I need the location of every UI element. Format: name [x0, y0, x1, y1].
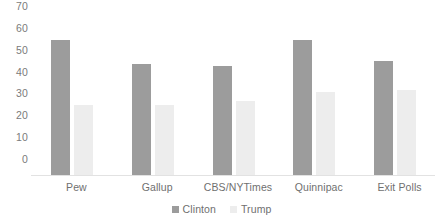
bar-group-gallup: [112, 22, 193, 175]
bar-trump-cbs-nytimes: [236, 101, 255, 175]
legend-item-trump: Trump: [230, 203, 271, 215]
legend-label-trump: Trump: [241, 203, 271, 215]
bar-trump-quinnipac: [316, 92, 335, 175]
bar-trump-exit-polls: [397, 90, 416, 175]
y-tick-label-10: 10: [0, 132, 28, 143]
category-label-pew: Pew: [31, 180, 112, 196]
bar-group-exit-polls: [354, 22, 435, 175]
legend-swatch-trump-icon: [230, 206, 237, 213]
category-label-quinnipac: Quinnipac: [273, 180, 354, 196]
bar-group-cbs-nytimes: [193, 22, 274, 175]
legend-label-clinton: Clinton: [183, 203, 216, 215]
y-tick-label-0: 0: [0, 154, 28, 165]
y-tick-label-50: 50: [0, 45, 28, 56]
x-axis-baseline: [31, 175, 435, 176]
legend-swatch-clinton-icon: [172, 206, 179, 213]
bar-clinton-pew: [51, 40, 70, 176]
bar-clinton-gallup: [132, 64, 151, 175]
bar-clinton-cbs-nytimes: [213, 66, 232, 175]
category-label-cbs-nytimes: CBS/NYTimes: [193, 180, 274, 196]
y-tick-label-60: 60: [0, 23, 28, 34]
bar-group-pew: [31, 22, 112, 175]
bar-clinton-quinnipac: [293, 40, 312, 176]
chart-legend: Clinton Trump: [0, 201, 443, 217]
bar-group-quinnipac: [273, 22, 354, 175]
y-tick-label-40: 40: [0, 67, 28, 78]
y-axis: 70 60 50 40 30 20 10 0: [0, 12, 28, 165]
category-label-gallup: Gallup: [112, 180, 193, 196]
y-tick-label-70: 70: [0, 1, 28, 12]
bar-clinton-exit-polls: [374, 61, 393, 175]
y-tick-label-30: 30: [0, 88, 28, 99]
x-axis-category-labels: Pew Gallup CBS/NYTimes Quinnipac Exit Po…: [31, 180, 435, 196]
bar-trump-pew: [74, 105, 93, 175]
legend-item-clinton: Clinton: [172, 203, 216, 215]
bar-chart: 70 60 50 40 30 20 10 0: [0, 0, 443, 221]
bar-groups: [31, 22, 435, 175]
category-label-exit-polls: Exit Polls: [354, 180, 435, 196]
bar-trump-gallup: [155, 105, 174, 175]
y-tick-label-20: 20: [0, 110, 28, 121]
